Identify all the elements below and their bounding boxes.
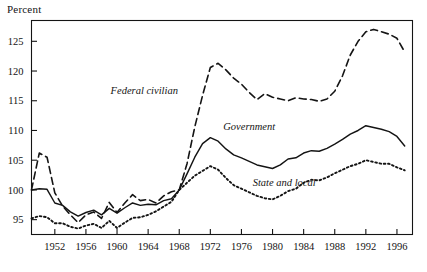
plot-frame <box>32 21 413 235</box>
x-tick-label-1968: 1968 <box>169 241 190 252</box>
x-tick-label-1992: 1992 <box>355 241 376 252</box>
series-label-state-and-local: State and local <box>253 177 316 188</box>
x-tick-label-1960: 1960 <box>107 241 128 252</box>
x-tick-label-1972: 1972 <box>200 241 221 252</box>
y-tick-label-115: 115 <box>8 95 23 106</box>
x-tick-label-1996: 1996 <box>386 241 407 252</box>
x-tick-label-1984: 1984 <box>293 241 315 252</box>
y-tick-label-100: 100 <box>8 185 24 196</box>
x-tick-label-1976: 1976 <box>231 241 252 252</box>
series-label-federal-civilian: Federal civilian <box>110 85 178 96</box>
x-tick-label-1956: 1956 <box>75 241 96 252</box>
x-tick-label-1988: 1988 <box>324 241 345 252</box>
series-line-federal-civilian <box>32 29 405 222</box>
x-tick-label-1952: 1952 <box>44 241 65 252</box>
y-tick-label-110: 110 <box>8 125 23 136</box>
y-tick-label-95: 95 <box>13 214 24 225</box>
y-tick-label-105: 105 <box>8 155 24 166</box>
series-label-government: Government <box>223 121 276 132</box>
x-tick-label-1980: 1980 <box>262 241 283 252</box>
y-tick-label-120: 120 <box>8 66 24 77</box>
chart-figure: Percent 95100105110115120125195219561960… <box>0 0 427 272</box>
series-line-state-and-local <box>32 160 405 228</box>
x-tick-label-1964: 1964 <box>138 241 160 252</box>
line-chart-svg: 9510010511011512012519521956196019641968… <box>0 0 427 272</box>
y-tick-label-125: 125 <box>8 36 24 47</box>
